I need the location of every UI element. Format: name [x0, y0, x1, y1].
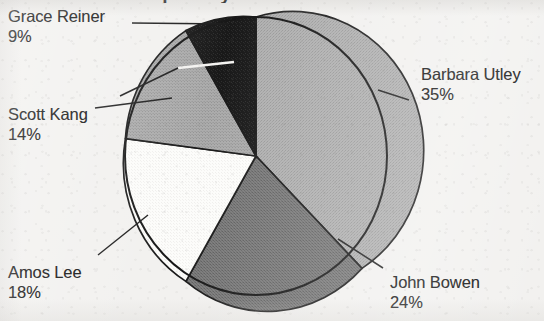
slice-label-percent: 24%	[390, 292, 480, 312]
leader-line-amos-lee	[98, 215, 148, 255]
slice-label-amos-lee: Amos Lee 18%	[8, 262, 82, 302]
slice-label-percent: 14%	[8, 124, 88, 144]
chart-title: Popularity	[138, 0, 231, 3]
slice-label-percent: 9%	[8, 26, 105, 46]
slice-label-grace-reiner: Grace Reiner 9%	[8, 6, 105, 46]
pie-slices	[123, 11, 423, 311]
slice-label-name: Scott Kang	[8, 104, 88, 124]
slice-label-barbara-utley: Barbara Utley 35%	[421, 64, 521, 104]
slice-label-percent: 18%	[8, 282, 82, 302]
slice-label-john-bowen: John Bowen 24%	[390, 272, 480, 312]
slice-label-percent: 35%	[421, 84, 521, 104]
slice-label-name: John Bowen	[390, 272, 480, 292]
slice-label-scott-kang: Scott Kang 14%	[8, 104, 88, 144]
slice-label-name: Amos Lee	[8, 262, 82, 282]
slice-label-name: Barbara Utley	[421, 64, 521, 84]
slice-label-name: Grace Reiner	[8, 6, 105, 26]
leader-line-grace-reiner	[132, 23, 228, 24]
